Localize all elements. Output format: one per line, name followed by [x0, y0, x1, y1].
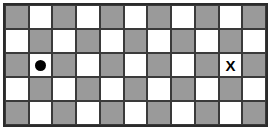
board-cell[interactable]	[171, 29, 195, 53]
board-cell[interactable]	[147, 53, 171, 77]
board-cell[interactable]	[195, 5, 219, 29]
board-cell[interactable]	[147, 5, 171, 29]
board-cell[interactable]	[76, 5, 100, 29]
board-cell[interactable]	[76, 29, 100, 53]
board-cell[interactable]	[5, 101, 29, 125]
board-cell[interactable]	[171, 5, 195, 29]
board-cell[interactable]	[124, 77, 148, 101]
x-marker-label: X	[225, 57, 235, 72]
board-cell[interactable]	[242, 101, 266, 125]
board-cell[interactable]	[5, 29, 29, 53]
board-cell[interactable]	[100, 77, 124, 101]
board-cell[interactable]	[242, 53, 266, 77]
board-cell[interactable]	[29, 5, 53, 29]
board-cell[interactable]	[100, 53, 124, 77]
board-cell[interactable]	[219, 29, 243, 53]
board-cell[interactable]	[171, 101, 195, 125]
board-cell[interactable]	[52, 53, 76, 77]
board-cell[interactable]	[52, 5, 76, 29]
board-cell[interactable]	[76, 77, 100, 101]
board-cell[interactable]	[29, 101, 53, 125]
board-cell[interactable]	[124, 29, 148, 53]
board-cell[interactable]	[219, 77, 243, 101]
board-cell[interactable]	[195, 53, 219, 77]
board-cell[interactable]	[100, 101, 124, 125]
board-cell[interactable]	[52, 77, 76, 101]
board-cell[interactable]	[124, 101, 148, 125]
board-cell[interactable]	[52, 101, 76, 125]
board-cell[interactable]	[219, 101, 243, 125]
board-cell[interactable]	[147, 101, 171, 125]
board-cell[interactable]	[147, 29, 171, 53]
board-cell[interactable]	[29, 29, 53, 53]
board-cell[interactable]	[124, 5, 148, 29]
board-cell[interactable]	[29, 77, 53, 101]
board-cell[interactable]	[195, 101, 219, 125]
board-frame: X	[3, 3, 268, 127]
board-cell[interactable]	[171, 77, 195, 101]
board-cell[interactable]	[195, 29, 219, 53]
board-cell[interactable]	[171, 53, 195, 77]
board-cell[interactable]	[147, 77, 171, 101]
board-cell[interactable]	[100, 29, 124, 53]
board-cell[interactable]: X	[219, 53, 243, 77]
board-cell[interactable]	[100, 5, 124, 29]
board-cell[interactable]	[219, 5, 243, 29]
board-cell[interactable]	[5, 5, 29, 29]
checkerboard-figure: X	[0, 0, 273, 135]
board-cell[interactable]	[5, 77, 29, 101]
board-cell[interactable]	[5, 53, 29, 77]
board-cell[interactable]	[76, 101, 100, 125]
board-grid: X	[5, 5, 266, 125]
board-cell[interactable]	[29, 53, 53, 77]
dot-marker-icon	[35, 60, 46, 71]
board-cell[interactable]	[76, 53, 100, 77]
board-cell[interactable]	[124, 53, 148, 77]
board-cell[interactable]	[195, 77, 219, 101]
board-cell[interactable]	[242, 77, 266, 101]
board-cell[interactable]	[242, 5, 266, 29]
board-cell[interactable]	[52, 29, 76, 53]
board-cell[interactable]	[242, 29, 266, 53]
